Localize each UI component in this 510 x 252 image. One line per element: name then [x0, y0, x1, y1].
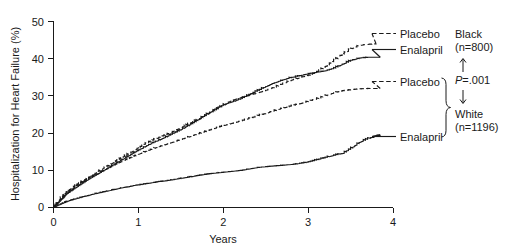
group-label-white-n: (n=1196): [455, 121, 499, 133]
legend-label-black-placebo: Placebo: [400, 28, 440, 40]
pvalue-label: P=.001: [455, 74, 490, 86]
x-tick-label-4: 4: [390, 216, 396, 228]
y-axis-title: Hospitalization for Heart Failure (%): [9, 27, 21, 201]
curve-group: [54, 34, 381, 208]
curve-white-placebo: [54, 88, 381, 207]
pvalue-arrow-up: [460, 59, 466, 73]
pvalue-arrow-down: [460, 90, 466, 104]
x-axis-ticks: 0 1 2 3 4: [50, 208, 396, 229]
x-tick-label-3: 3: [305, 216, 311, 228]
legend-black-enalapril: Enalapril: [372, 44, 443, 56]
y-tick-label-0: 0: [38, 201, 44, 213]
white-group-brace: [442, 78, 451, 137]
y-tick-label-20: 20: [32, 127, 44, 139]
y-axis-ticks: 0 10 20 30 40 50: [32, 16, 54, 214]
x-tick-label-1: 1: [135, 216, 141, 228]
legend-white-enalapril: Enalapril: [372, 131, 443, 143]
legend-white-placebo: Placebo: [372, 76, 440, 88]
curve-black-placebo: [54, 44, 377, 208]
hospitalization-heart-failure-chart: Hospitalization for Heart Failure (%) 0 …: [0, 0, 510, 252]
group-label-black: Black: [455, 28, 482, 40]
group-label-white: White: [455, 108, 483, 120]
legend-label-white-enalapril: Enalapril: [400, 131, 443, 143]
leader-curve-white-placebo: [372, 82, 380, 89]
pvalue-value: =.001: [462, 74, 490, 86]
leader-curve-black-placebo: [372, 34, 376, 44]
legend-black-placebo: Placebo: [372, 28, 440, 40]
x-tick-label-0: 0: [50, 216, 56, 228]
chart-svg: Hospitalization for Heart Failure (%) 0 …: [0, 0, 510, 252]
x-axis-title: Years: [209, 233, 237, 245]
legend-label-white-placebo: Placebo: [400, 76, 440, 88]
y-tick-label-50: 50: [32, 16, 44, 28]
y-tick-label-40: 40: [32, 53, 44, 65]
legend-label-black-enalapril: Enalapril: [400, 44, 443, 56]
x-tick-label-2: 2: [220, 216, 226, 228]
leader-curve-black-enalapril: [372, 50, 380, 58]
curve-black-enalapril: [54, 57, 381, 207]
y-tick-label-30: 30: [32, 90, 44, 102]
group-label-black-n: (n=800): [455, 41, 493, 53]
y-tick-label-10: 10: [32, 164, 44, 176]
